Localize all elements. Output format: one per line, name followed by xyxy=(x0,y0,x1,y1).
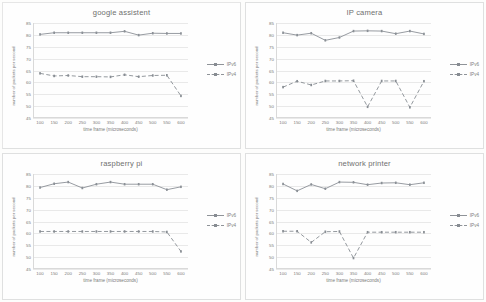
data-point-ipv6 xyxy=(409,30,411,32)
legend-line-ipv4-icon xyxy=(450,223,467,229)
legend-label-ipv6: IPv6 xyxy=(470,213,479,218)
x-axis-tick: 500 xyxy=(392,120,399,125)
data-point-ipv6 xyxy=(67,181,69,183)
y-axis-tick: 45 xyxy=(26,116,31,121)
data-point-ipv6 xyxy=(81,32,83,34)
y-axis-tick: 60 xyxy=(26,231,31,236)
x-axis-tick: 550 xyxy=(163,271,170,276)
x-axis-tick: 600 xyxy=(177,120,184,125)
data-point-ipv4 xyxy=(39,72,41,74)
y-axis-tick: 85 xyxy=(26,172,31,177)
data-point-ipv4 xyxy=(67,230,69,232)
x-axis-tick: 350 xyxy=(350,271,357,276)
x-axis-tick: 500 xyxy=(149,271,156,276)
y-axis-tick: 85 xyxy=(269,21,274,26)
data-point-ipv6 xyxy=(353,30,355,32)
series-layer xyxy=(276,23,431,118)
chart-title: network printer xyxy=(246,159,483,168)
data-point-ipv6 xyxy=(166,188,168,190)
y-axis-tick: 45 xyxy=(26,267,31,272)
y-axis-tick: 70 xyxy=(269,207,274,212)
data-point-ipv4 xyxy=(81,230,83,232)
data-point-ipv6 xyxy=(96,32,98,34)
data-point-ipv6 xyxy=(124,183,126,185)
chart-title: IP camera xyxy=(246,8,483,17)
data-point-ipv4 xyxy=(124,230,126,232)
chart-panel-raspberry-pi: raspberry pi number of packets per secon… xyxy=(0,151,243,302)
data-point-ipv6 xyxy=(423,182,425,184)
y-axis-tick: 55 xyxy=(26,92,31,97)
x-axis-tick: 250 xyxy=(79,271,86,276)
y-axis-tick: 75 xyxy=(269,44,274,49)
x-axis-tick: 200 xyxy=(65,271,72,276)
data-point-ipv6 xyxy=(324,39,326,41)
y-axis-tick: 70 xyxy=(26,56,31,61)
y-axis-tick: 80 xyxy=(269,183,274,188)
plot-area: 8580757065605550451001502002503003504004… xyxy=(33,23,188,118)
y-axis-tick: 75 xyxy=(26,195,31,200)
x-axis-tick: 350 xyxy=(107,271,114,276)
plot-area: 8580757065605550451001502002503003504004… xyxy=(33,174,188,269)
data-point-ipv4 xyxy=(166,74,168,76)
x-axis-tick: 600 xyxy=(177,271,184,276)
data-point-ipv6 xyxy=(296,34,298,36)
data-point-ipv6 xyxy=(423,33,425,35)
data-point-ipv6 xyxy=(53,183,55,185)
data-point-ipv6 xyxy=(353,181,355,183)
x-axis-tick: 300 xyxy=(93,120,100,125)
x-axis-tick: 350 xyxy=(350,120,357,125)
data-point-ipv6 xyxy=(39,186,41,188)
legend-label-ipv6: IPv6 xyxy=(227,213,236,218)
legend-line-ipv6-icon xyxy=(207,213,224,219)
x-axis-tick: 150 xyxy=(293,271,300,276)
series-layer xyxy=(33,174,188,269)
chart-title: raspberry pi xyxy=(3,159,240,168)
x-axis-tick: 150 xyxy=(293,120,300,125)
data-point-ipv4 xyxy=(124,74,126,76)
figure-sheet: google assistent number of packets per s… xyxy=(0,0,486,302)
y-axis-tick: 65 xyxy=(26,219,31,224)
x-axis-tick: 450 xyxy=(378,271,385,276)
y-axis-tick: 50 xyxy=(26,255,31,260)
y-axis-tick: 55 xyxy=(26,243,31,248)
data-point-ipv4 xyxy=(395,231,397,233)
data-point-ipv4 xyxy=(296,80,298,82)
data-point-ipv6 xyxy=(409,183,411,185)
legend-line-ipv6-icon xyxy=(207,62,224,68)
data-point-ipv4 xyxy=(110,230,112,232)
x-axis-tick: 200 xyxy=(65,120,72,125)
y-axis-tick: 60 xyxy=(269,80,274,85)
data-point-ipv4 xyxy=(39,230,41,232)
data-point-ipv4 xyxy=(152,74,154,76)
y-axis-tick: 80 xyxy=(26,32,31,37)
x-axis-label: time frame (microseconds) xyxy=(276,127,431,132)
data-point-ipv4 xyxy=(423,231,425,233)
x-axis-tick: 450 xyxy=(135,271,142,276)
y-axis-tick: 75 xyxy=(26,44,31,49)
data-point-ipv6 xyxy=(339,181,341,183)
x-axis-tick: 550 xyxy=(406,120,413,125)
data-point-ipv6 xyxy=(81,187,83,189)
x-axis-label: time frame (microseconds) xyxy=(33,278,188,283)
data-point-ipv4 xyxy=(409,231,411,233)
y-axis-tick: 45 xyxy=(269,116,274,121)
chart-panel-ip-camera: IP camera number of packets per second 8… xyxy=(243,0,486,151)
y-axis-label: number of packets per second xyxy=(11,38,16,114)
data-point-ipv4 xyxy=(67,74,69,76)
x-axis-tick: 100 xyxy=(279,120,286,125)
data-point-ipv6 xyxy=(39,33,41,35)
data-point-ipv6 xyxy=(53,32,55,34)
legend-label-ipv4: IPv4 xyxy=(227,72,236,77)
data-point-ipv4 xyxy=(180,250,182,252)
data-point-ipv6 xyxy=(96,183,98,185)
x-axis-tick: 100 xyxy=(279,271,286,276)
x-axis-label: time frame (microseconds) xyxy=(276,278,431,283)
y-axis-tick: 45 xyxy=(269,267,274,272)
data-point-ipv6 xyxy=(166,32,168,34)
data-point-ipv4 xyxy=(53,75,55,77)
x-axis-tick: 400 xyxy=(121,120,128,125)
data-point-ipv4 xyxy=(423,80,425,82)
chart-legend: IPv6 IPv4 xyxy=(450,209,479,233)
grid-line xyxy=(33,118,188,119)
legend-item-ipv4: IPv4 xyxy=(207,223,236,229)
